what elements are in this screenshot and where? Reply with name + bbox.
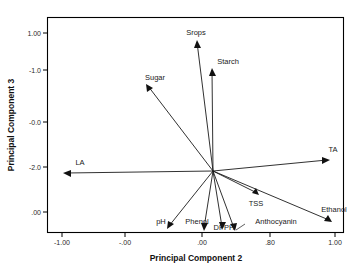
y-axis-title: Principal Component 3: [6, 78, 16, 171]
label-srops: Srops: [186, 28, 206, 37]
label-sugar: Sugar: [145, 73, 166, 82]
y-tick-label-4: .00: [31, 209, 41, 216]
label-dpph: DPPH: [214, 223, 235, 232]
label-starch: Starch: [217, 57, 239, 66]
y-tick-label-0: 1.00: [27, 30, 41, 37]
y-tick-label-1: -1.0: [29, 67, 41, 74]
label-phenol: Phenol: [185, 217, 209, 226]
y-tick-label-3: -2.0: [29, 164, 41, 171]
x-axis-title: Principal Component 2: [150, 253, 243, 263]
label-ta: TA: [328, 145, 337, 154]
label-anthocyanin: Anthocyanin: [255, 217, 296, 226]
x-tick-label-3: .80: [265, 239, 275, 246]
label-ph: pH: [156, 217, 166, 226]
y-tick-label-2: -0.0: [29, 119, 41, 126]
pca-biplot-svg: 1.00 -1.0 -0.0 -2.0 .00 -1.00 -.00 .00 .…: [0, 0, 357, 274]
x-tick-label-4: 1.00: [328, 239, 342, 246]
label-tss: TSS: [249, 199, 264, 208]
label-la: LA: [75, 158, 84, 167]
x-tick-label-0: -1.00: [54, 239, 70, 246]
x-tick-label-1: -.00: [119, 239, 131, 246]
pca-biplot-figure: 1.00 -1.0 -0.0 -2.0 .00 -1.00 -.00 .00 .…: [0, 0, 357, 274]
label-ethanol: Ethanol: [321, 205, 347, 214]
x-tick-label-2: .00: [197, 239, 207, 246]
